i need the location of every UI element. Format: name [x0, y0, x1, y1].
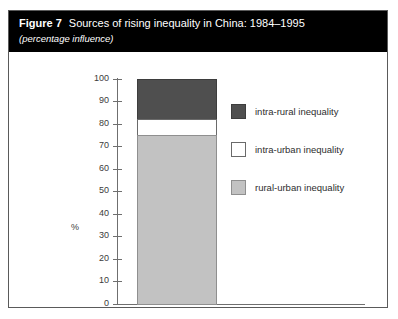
y-axis-title: %: [71, 222, 79, 232]
legend-label: intra-urban inequality: [255, 144, 344, 155]
legend-item-rural-urban[interactable]: rural-urban inequality: [231, 180, 381, 196]
y-axis-tick: [113, 146, 122, 147]
y-axis-tick-label: 90: [79, 96, 109, 105]
y-axis-tick: [113, 304, 122, 305]
y-axis-tick-label: 60: [79, 164, 109, 173]
figure-title-bar: Figure 7Sources of rising inequality in …: [9, 11, 388, 52]
bar-segment-intra-rural[interactable]: [137, 79, 217, 120]
y-axis-tick-label: 80: [79, 119, 109, 128]
legend-swatch-icon: [231, 104, 246, 119]
figure-subtitle: (percentage influence): [19, 33, 388, 45]
y-axis-tick: [113, 191, 122, 192]
legend-item-intra-urban[interactable]: intra-urban inequality: [231, 142, 381, 158]
y-axis-tick-label: 0: [79, 299, 109, 308]
y-axis-tick-label: 40: [79, 209, 109, 218]
legend-swatch-icon: [231, 142, 246, 157]
y-axis-tick-label: 50: [79, 186, 109, 195]
legend-swatch-icon: [231, 180, 246, 195]
page-title: Sources of rising inequality in China: 1…: [69, 17, 305, 29]
plot-area: 100 90 80 70 60 50 40 30 20 10 0 %: [9, 52, 388, 308]
y-axis-tick: [113, 214, 122, 215]
legend-item-intra-rural[interactable]: intra-rural inequality: [231, 104, 381, 120]
y-axis-tick-label: 20: [79, 254, 109, 263]
figure-title-line: Figure 7Sources of rising inequality in …: [19, 17, 388, 30]
figure-panel: Figure 7Sources of rising inequality in …: [8, 10, 388, 308]
bar-segment-rural-urban[interactable]: [137, 135, 217, 305]
y-axis-tick: [113, 124, 122, 125]
y-axis-tick: [113, 101, 122, 102]
y-axis-tick-label: 10: [79, 276, 109, 285]
bar-segment-intra-urban[interactable]: [137, 119, 217, 136]
legend: intra-rural inequality intra-urban inequ…: [231, 104, 381, 218]
y-axis-tick: [113, 79, 122, 80]
legend-label: rural-urban inequality: [255, 182, 344, 193]
y-axis-tick: [113, 169, 122, 170]
y-axis-tick-label: 100: [79, 74, 109, 83]
y-axis-tick-label: 70: [79, 141, 109, 150]
y-axis-tick-label: 30: [79, 231, 109, 240]
y-axis-tick: [113, 236, 122, 237]
y-axis-tick: [113, 259, 122, 260]
y-axis-tick: [113, 281, 122, 282]
legend-label: intra-rural inequality: [255, 106, 338, 117]
figure-number-label: Figure 7: [19, 17, 62, 29]
